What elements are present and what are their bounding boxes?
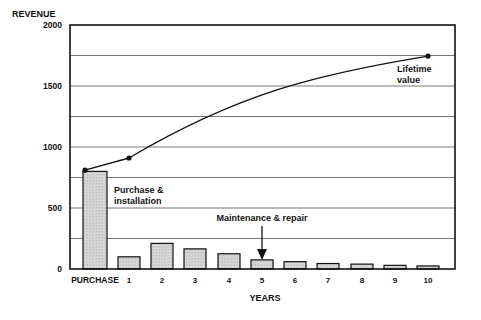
revenue-chart: 0500100015002000 PURCHASE12345678910 REV… — [0, 0, 481, 320]
lifetime-annotation-line2: value — [397, 75, 420, 85]
y-axis-title: REVENUE — [12, 9, 56, 19]
x-tick-label: 5 — [260, 276, 265, 285]
purchase-annotation-line2: installation — [114, 196, 162, 206]
bar-2 — [151, 243, 173, 269]
y-tick-label: 1000 — [43, 142, 62, 152]
line-segment — [85, 158, 129, 170]
y-tick-label: 1500 — [43, 81, 62, 91]
bar-7 — [317, 264, 339, 269]
x-tick-label: 9 — [393, 276, 398, 285]
x-tick-label: 10 — [424, 276, 433, 285]
bar-1 — [118, 257, 140, 269]
x-axis-ticks: PURCHASE12345678910 — [71, 275, 433, 285]
cumulative-revenue-line — [82, 54, 430, 173]
x-tick-label: 6 — [293, 276, 298, 285]
bar-4 — [218, 254, 240, 269]
arrow-down-icon — [257, 226, 267, 260]
y-tick-label: 2000 — [43, 20, 62, 30]
bar-5 — [251, 260, 273, 269]
x-tick-label: 1 — [127, 276, 132, 285]
x-tick-label: 2 — [160, 276, 165, 285]
bar-6 — [284, 262, 306, 269]
x-tick-label: 8 — [360, 276, 365, 285]
x-tick-label: 4 — [227, 276, 232, 285]
maintenance-annotation: Maintenance & repair — [216, 213, 308, 223]
bar-purchase — [83, 171, 107, 269]
purchase-annotation-line1: Purchase & — [114, 185, 164, 195]
bar-3 — [184, 249, 206, 269]
data-point — [82, 168, 87, 173]
data-point — [425, 54, 430, 59]
y-tick-label: 500 — [48, 203, 62, 213]
line-curve — [129, 56, 428, 158]
x-tick-label: PURCHASE — [71, 275, 119, 285]
y-tick-label: 0 — [57, 264, 62, 274]
data-point — [126, 155, 131, 160]
lifetime-annotation-line1: Lifetime — [397, 64, 432, 74]
y-axis-ticks: 0500100015002000 — [43, 20, 62, 274]
x-tick-label: 3 — [193, 276, 198, 285]
x-tick-label: 7 — [326, 276, 331, 285]
x-axis-title: YEARS — [249, 293, 280, 303]
